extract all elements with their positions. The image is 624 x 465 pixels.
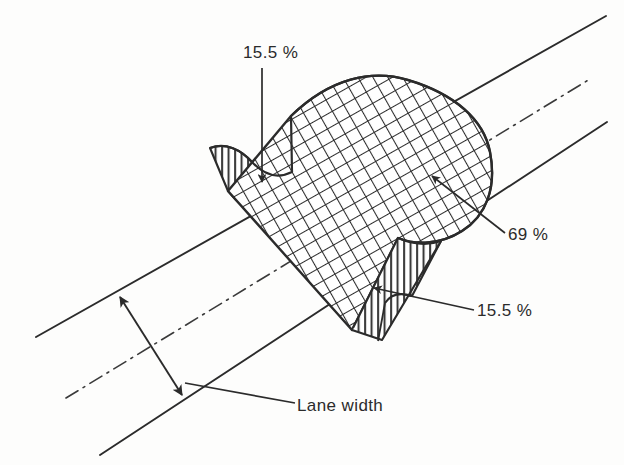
label-top-percent: 15.5 %: [243, 44, 298, 61]
leader-lane-width: [185, 383, 295, 403]
label-lower-percent: 15.5 %: [477, 302, 532, 319]
label-lane-width: Lane width: [297, 397, 383, 414]
central-band: [228, 76, 492, 330]
diagram-canvas: 15.5 % 69 % 15.5 % Lane width: [0, 0, 624, 465]
label-center-percent: 69 %: [508, 226, 548, 243]
lane-width-dimension-arrow: [120, 297, 182, 395]
